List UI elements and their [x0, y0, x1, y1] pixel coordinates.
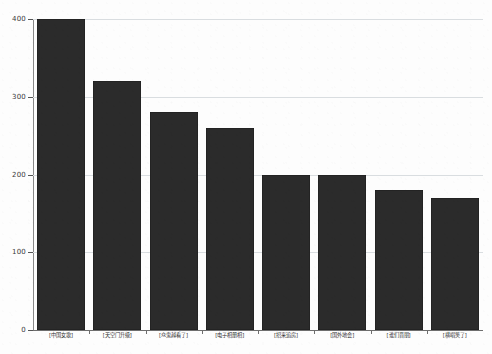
- x-axis-label: [天空门升级]: [89, 333, 145, 338]
- y-tick-0: 0: [0, 330, 26, 331]
- x-axis-label: [中国女歌]: [33, 333, 89, 338]
- y-tick-label: 400: [12, 16, 26, 23]
- y-tick-label: 100: [12, 249, 26, 256]
- y-tick-mark-0: [28, 330, 33, 331]
- y-tick-label: 0: [21, 327, 26, 334]
- x-axis-label: [众鬼越看了]: [146, 333, 202, 338]
- y-tick-100: 100: [0, 252, 26, 253]
- x-axis-label: [横唱笑了]: [427, 333, 483, 338]
- x-axis-label: [招来追房]: [258, 333, 314, 338]
- bar: [262, 175, 310, 331]
- y-tick-mark-100: [28, 252, 33, 253]
- x-axis-label: [谁们晋朋]: [371, 333, 427, 338]
- y-tick-label: 300: [12, 93, 26, 100]
- bar: [431, 198, 479, 330]
- y-tick-300: 300: [0, 97, 26, 98]
- x-axis-label: [国外地会]: [314, 333, 370, 338]
- bar-chart: 0100200300400 [中国女歌][天空门升级][众鬼越看了][电子相册相…: [0, 0, 492, 354]
- bar: [37, 19, 85, 330]
- y-tick-mark-300: [28, 97, 33, 98]
- plot-area: [33, 19, 483, 330]
- bar: [206, 128, 254, 330]
- bar: [318, 175, 366, 331]
- y-tick-label: 200: [12, 171, 26, 178]
- y-tick-mark-400: [28, 19, 33, 20]
- bar: [375, 190, 423, 330]
- y-tick-400: 400: [0, 19, 26, 20]
- y-tick-mark-200: [28, 175, 33, 176]
- bar: [150, 112, 198, 330]
- bar: [93, 81, 141, 330]
- y-tick-200: 200: [0, 175, 26, 176]
- gridline-400: [33, 19, 483, 20]
- x-axis-label: [电子相册相]: [202, 333, 258, 338]
